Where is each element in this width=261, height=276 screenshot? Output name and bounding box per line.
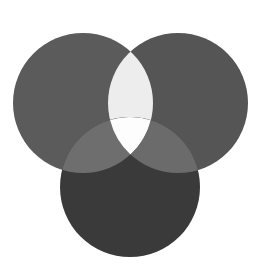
venn-diagram-figure: Three-circle Venn diagram	[0, 0, 261, 276]
venn-diagram-canvas: Three-circle Venn diagram	[0, 0, 261, 276]
